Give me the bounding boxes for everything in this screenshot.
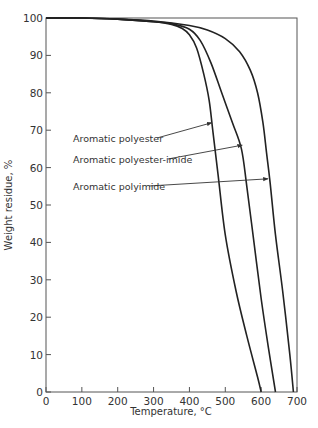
x-tick-label: 200 <box>108 395 128 407</box>
y-tick-label: 90 <box>30 49 43 61</box>
y-tick-label: 70 <box>30 124 43 136</box>
series-line-2 <box>46 18 275 392</box>
y-tick-label: 20 <box>30 311 43 323</box>
y-axis: 0102030405060708090100 <box>23 12 51 398</box>
x-tick-label: 0 <box>43 395 50 407</box>
y-tick-label: 60 <box>30 162 43 174</box>
y-axis-label: Weight residue, % <box>3 160 14 251</box>
plot-frame <box>46 18 297 392</box>
x-axis: 0100200300400500600700 <box>43 387 307 407</box>
plot-border <box>46 18 297 392</box>
series-line-3 <box>46 18 293 392</box>
x-tick-label: 500 <box>215 395 235 407</box>
x-tick-label: 100 <box>72 395 92 407</box>
x-tick-label: 600 <box>251 395 271 407</box>
annotation-label: Aromatic polyester <box>73 133 163 144</box>
tga-chart: 0102030405060708090100 01002003004005006… <box>0 0 318 428</box>
annotations: Aromatic polyesterAromatic polyester-imi… <box>73 123 268 192</box>
x-tick-label: 700 <box>287 395 307 407</box>
data-series <box>46 18 293 392</box>
y-tick-label: 30 <box>30 274 43 286</box>
y-tick-label: 40 <box>30 236 43 248</box>
y-tick-label: 80 <box>30 87 43 99</box>
y-tick-label: 10 <box>30 349 43 361</box>
annotation-arrow <box>157 123 212 138</box>
series-line-1 <box>46 18 261 392</box>
annotation-label: Aromatic polyester-imide <box>73 154 192 165</box>
annotation-arrow <box>149 179 268 186</box>
annotation-label: Aromatic polyimide <box>73 181 165 192</box>
y-tick-label: 100 <box>23 12 43 24</box>
annotation-arrow <box>168 145 242 159</box>
y-tick-label: 50 <box>30 199 43 211</box>
x-axis-label: Temperature, °C <box>129 406 212 417</box>
